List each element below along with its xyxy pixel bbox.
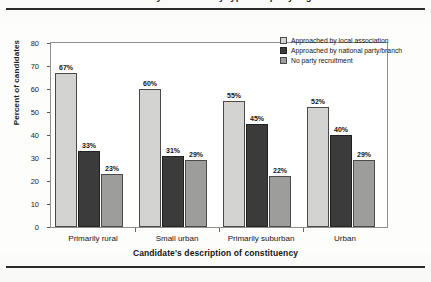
- bar-value-label: 52%: [311, 98, 325, 105]
- chart-figure: Recruitment of candidates by constituenc…: [0, 0, 431, 282]
- bar-value-label: 29%: [357, 151, 371, 158]
- legend-label: Approached by national party/branch: [291, 47, 402, 54]
- y-tick-label: 10: [0, 200, 39, 209]
- y-tick-label: 40: [0, 131, 39, 140]
- bar-value-label: 67%: [59, 64, 73, 71]
- bar: [162, 156, 184, 227]
- legend-swatch-icon: [280, 47, 287, 54]
- y-tick-mark: [47, 112, 50, 113]
- x-category-label: Urban: [303, 234, 387, 243]
- x-tick-mark: [135, 228, 136, 232]
- bar: [269, 176, 291, 227]
- y-tick-mark: [47, 135, 50, 136]
- bar: [330, 135, 352, 227]
- y-tick-mark: [47, 89, 50, 90]
- x-category-label: Primarily rural: [51, 234, 135, 243]
- x-category-label: Primarily suburban: [219, 234, 303, 243]
- bar-value-label: 23%: [105, 165, 119, 172]
- y-tick-label: 50: [0, 108, 39, 117]
- bar-value-label: 31%: [166, 147, 180, 154]
- bar-value-label: 45%: [250, 115, 264, 122]
- bar: [139, 89, 161, 227]
- bottom-rule: [6, 266, 425, 268]
- legend-swatch-icon: [280, 37, 287, 44]
- y-tick-label: 0: [0, 223, 39, 232]
- bar-value-label: 40%: [334, 126, 348, 133]
- bar-value-label: 55%: [227, 92, 241, 99]
- y-tick-label: 20: [0, 177, 39, 186]
- bar: [55, 73, 77, 227]
- legend-item: Approached by national party/branch: [280, 47, 402, 54]
- x-axis-title: Candidate's description of constituency: [0, 248, 431, 258]
- y-tick-mark: [47, 66, 50, 67]
- bar-value-label: 22%: [273, 167, 287, 174]
- y-tick-label: 70: [0, 62, 39, 71]
- bar: [223, 101, 245, 228]
- y-tick-mark: [47, 158, 50, 159]
- bar: [353, 160, 375, 227]
- bars-layer: 67%33%23%60%31%29%55%45%22%52%40%29%: [51, 43, 387, 227]
- x-tick-mark: [219, 228, 220, 232]
- y-tick-label: 30: [0, 154, 39, 163]
- legend-label: No party recruitment: [291, 57, 353, 64]
- y-tick-mark: [47, 227, 50, 228]
- bar: [101, 174, 123, 227]
- bar: [185, 160, 207, 227]
- legend-item: No party recruitment: [280, 57, 402, 64]
- bar-group: 60%31%29%: [135, 43, 219, 227]
- top-rule: [6, 8, 425, 10]
- bar: [78, 151, 100, 227]
- bar: [246, 124, 268, 228]
- bar: [307, 107, 329, 227]
- y-tick-label: 60: [0, 85, 39, 94]
- legend-item: Approached by local association: [280, 37, 402, 44]
- x-category-label: Small urban: [135, 234, 219, 243]
- bar-group: 52%40%29%: [303, 43, 387, 227]
- y-tick-label: 80: [0, 39, 39, 48]
- x-tick-mark: [303, 228, 304, 232]
- y-tick-mark: [47, 204, 50, 205]
- bar-value-label: 33%: [82, 142, 96, 149]
- bar-value-label: 60%: [143, 80, 157, 87]
- bar-value-label: 29%: [189, 151, 203, 158]
- legend-swatch-icon: [280, 57, 287, 64]
- y-tick-mark: [47, 43, 50, 44]
- figure-title-cropped: Recruitment of candidates by constituenc…: [0, 0, 431, 7]
- bar-group: 55%45%22%: [219, 43, 303, 227]
- y-tick-mark: [47, 181, 50, 182]
- figure-title-text: Recruitment of candidates by constituenc…: [26, 0, 354, 2]
- chart-legend: Approached by local associationApproache…: [280, 37, 402, 64]
- legend-label: Approached by local association: [291, 37, 388, 44]
- bar-group: 67%33%23%: [51, 43, 135, 227]
